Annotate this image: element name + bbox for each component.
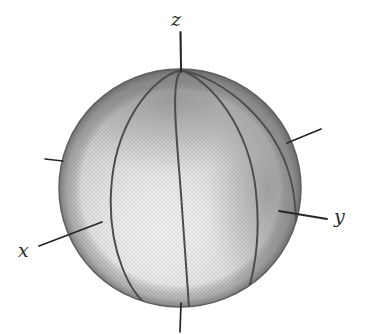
z-axis-line-lower: [180, 303, 181, 332]
sphere-figure: z y x: [0, 0, 367, 334]
x-axis-label: x: [18, 241, 29, 260]
minus-x-axis-tick: [45, 159, 63, 161]
minus-y-axis-tick: [287, 129, 321, 143]
z-axis-label: z: [171, 10, 181, 29]
z-axis-line-upper: [181, 32, 182, 72]
sphere-canvas: [0, 0, 367, 334]
y-axis-label: y: [334, 207, 345, 226]
